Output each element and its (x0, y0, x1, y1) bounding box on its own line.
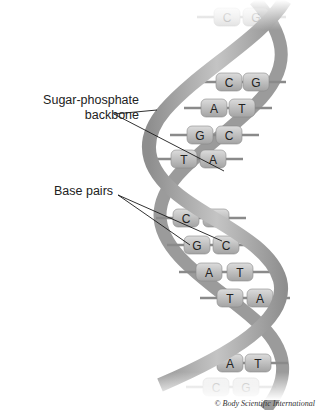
nucleotide-letter: C (222, 239, 231, 253)
nucleotide-letter: G (195, 129, 204, 143)
nucleotide-letter: A (256, 292, 264, 306)
top-fade (140, 0, 317, 30)
backbone-label-line1: Sugar-phosphate (17, 93, 139, 108)
backbone-label-line2: backbone (17, 108, 139, 123)
nucleotide-letter: A (210, 102, 218, 116)
nucleotide-letter: T (236, 266, 244, 280)
nucleotide-letter: A (205, 266, 213, 280)
sugar-phosphate-backbone-label: Sugar-phosphate backbone (17, 93, 139, 123)
nucleotide-letter: G (192, 239, 201, 253)
dna-helix-diagram: CGCGATGCTACGGCATTAATCG (0, 0, 317, 410)
nucleotide-letter: C (225, 76, 234, 90)
nucleotide-letter: T (180, 153, 188, 167)
bottom-fade (140, 372, 317, 400)
nucleotide-letter: C (225, 129, 234, 143)
nucleotide-letter: T (226, 292, 234, 306)
base-pairs-label: Base pairs (54, 184, 113, 199)
nucleotide-letter: T (254, 357, 262, 371)
nucleotide-letter: T (238, 102, 246, 116)
nucleotide-letter: G (251, 76, 260, 90)
copyright-credit: © Body Scientific International (215, 399, 316, 408)
